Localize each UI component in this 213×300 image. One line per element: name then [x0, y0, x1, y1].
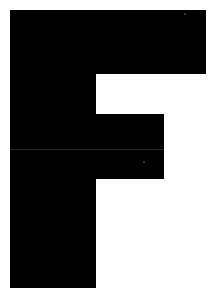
scan-speck	[184, 13, 186, 15]
letter-f-top-bar	[10, 10, 206, 74]
scan-seam-line	[10, 149, 164, 150]
glyph-character: F	[0, 0, 1, 1]
image-canvas: F	[0, 0, 213, 300]
letter-f-middle-bar	[10, 114, 164, 179]
scan-speck	[143, 161, 145, 163]
